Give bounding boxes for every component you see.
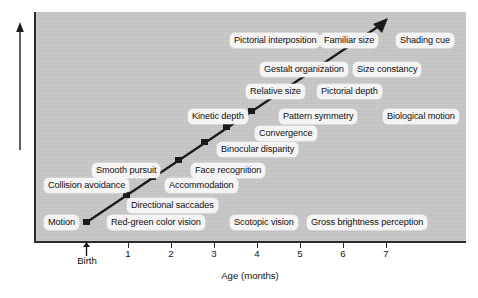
trend-line-arrowhead bbox=[373, 18, 388, 33]
milestone-label-biological-motion: Biological motion bbox=[383, 109, 459, 124]
x-tick-label-3: 3 bbox=[205, 248, 223, 259]
milestone-label-convergence: Convergence bbox=[255, 126, 317, 141]
milestone-label-shading-cue: Shading cue bbox=[396, 33, 454, 48]
birth-marker: Birth bbox=[34, 240, 124, 274]
marker-directional-saccades bbox=[123, 192, 130, 198]
x-tick-label-5: 5 bbox=[291, 248, 309, 259]
marker-pattern-symmetry bbox=[248, 108, 255, 114]
x-axis-label: Age (months) bbox=[34, 270, 466, 281]
milestone-label-familiar-size: Familiar size bbox=[320, 33, 378, 48]
milestone-label-face-recognition: Face recognition bbox=[191, 163, 265, 178]
milestone-label-directional-saccades: Directional saccades bbox=[127, 198, 218, 213]
x-tick-label-2: 2 bbox=[162, 248, 180, 259]
visual-competence-development-figure: Visual competence Pict bbox=[0, 0, 478, 298]
milestone-label-pattern-symmetry: Pattern symmetry bbox=[279, 109, 357, 124]
milestone-label-collision-avoidance: Collision avoidance bbox=[44, 178, 129, 193]
milestone-label-pictorial-interposition: Pictorial interposition bbox=[230, 33, 320, 48]
x-tick-label-6: 6 bbox=[334, 248, 352, 259]
milestone-label-smooth-pursuit: Smooth pursuit bbox=[92, 163, 160, 178]
milestone-label-gross-brightness-perception: Gross brightness perception bbox=[307, 215, 427, 230]
birth-label: Birth bbox=[62, 255, 112, 266]
y-axis-arrow-icon bbox=[15, 22, 25, 150]
x-tick-label-7: 7 bbox=[377, 248, 395, 259]
birth-arrow-icon bbox=[82, 242, 91, 256]
marker-motion bbox=[83, 219, 90, 225]
milestone-label-scotopic-vision: Scotopic vision bbox=[230, 215, 298, 230]
milestone-label-gestalt-organization: Gestalt organization bbox=[260, 62, 348, 77]
milestone-label-relative-size: Relative size bbox=[246, 84, 305, 99]
milestone-label-red-green-color-vision: Red-green color vision bbox=[107, 215, 205, 230]
milestone-label-pictorial-depth: Pictorial depth bbox=[317, 84, 382, 99]
milestone-label-binocular-disparity: Binocular disparity bbox=[217, 142, 298, 157]
milestone-label-accommodation: Accommodation bbox=[165, 178, 238, 193]
marker-face-recognition bbox=[175, 157, 182, 163]
milestone-label-kinetic-depth: Kinetic depth bbox=[188, 109, 248, 124]
x-tick-label-4: 4 bbox=[248, 248, 266, 259]
marker-binocular-disparity bbox=[201, 139, 208, 145]
milestone-label-size-constancy: Size constancy bbox=[353, 62, 421, 77]
marker-convergence bbox=[223, 124, 230, 130]
plot-area: Pictorial interpositionFamiliar sizeShad… bbox=[34, 12, 466, 243]
milestone-label-motion: Motion bbox=[44, 215, 79, 230]
